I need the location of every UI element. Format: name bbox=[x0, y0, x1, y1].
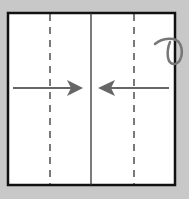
fold-diagram bbox=[0, 0, 189, 199]
